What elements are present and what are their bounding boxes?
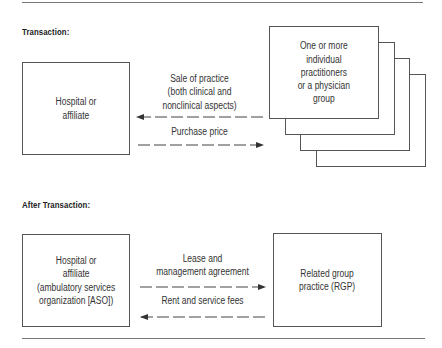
arrows-layer: [0, 0, 442, 348]
